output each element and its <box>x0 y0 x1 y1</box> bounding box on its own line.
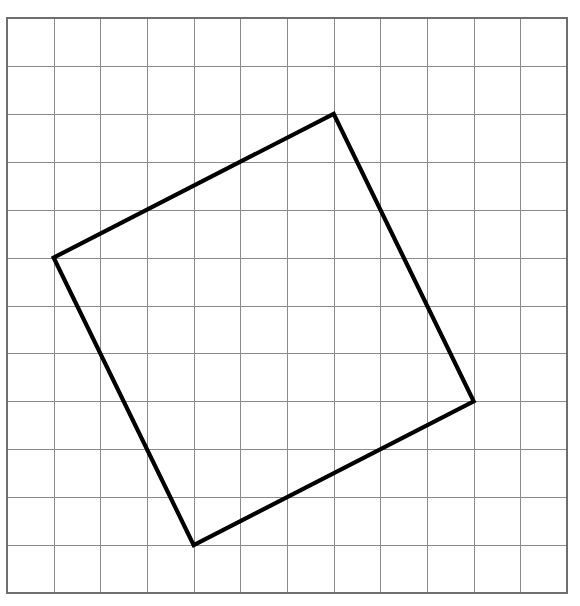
canvas-background <box>0 0 580 606</box>
grid-figure-canvas <box>0 0 580 606</box>
figure-root <box>0 0 580 606</box>
